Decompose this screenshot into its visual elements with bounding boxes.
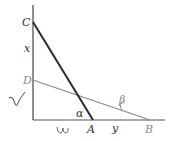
- label-x: x: [24, 42, 31, 55]
- label-alpha: α: [76, 107, 84, 120]
- handwritten-omega-mark: [57, 127, 68, 133]
- label-beta: β: [118, 94, 125, 107]
- ladder-diagram: C x D α A y B β: [0, 0, 174, 141]
- line-CA: [33, 22, 93, 120]
- label-C: C: [22, 16, 31, 29]
- label-A: A: [86, 123, 95, 136]
- line-DB: [33, 80, 150, 120]
- handwritten-check-mark: [9, 92, 25, 106]
- label-B: B: [144, 123, 153, 136]
- label-y: y: [111, 122, 119, 135]
- label-D: D: [22, 74, 32, 87]
